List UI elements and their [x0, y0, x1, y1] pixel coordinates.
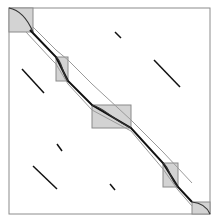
diagonal-block-1	[9, 8, 33, 32]
band-matrix-diagram	[0, 0, 218, 221]
